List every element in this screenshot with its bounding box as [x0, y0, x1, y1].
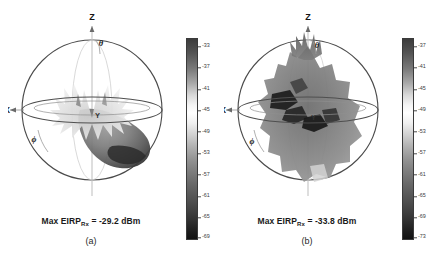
caption-b-value: = -33.8 dBm	[305, 216, 357, 226]
figure-container: Z X Y θ ϕ -33 -37 -41 -45 -49 -53 -57 -6…	[0, 0, 432, 266]
colorbar-tick-b-3: -49	[415, 108, 426, 113]
colorbar-b	[402, 38, 414, 240]
colorbar-gradient-a	[187, 39, 197, 239]
colorbar-tick-a-8: -65	[199, 215, 210, 220]
x-axis-label-b: X	[224, 105, 226, 115]
colorbar-tick-b-1: -41	[415, 65, 426, 70]
phi-arc-a	[38, 130, 48, 152]
z-axis-label-b: Z	[305, 12, 311, 22]
caption-b: Max EIRPRx = -33.8 dBm	[216, 216, 398, 226]
z-axis-arrow-a	[90, 26, 95, 32]
plot-area-b: Z X Y θ ϕ	[224, 6, 392, 214]
caption-a-subscript: Rx	[81, 221, 89, 227]
colorbar-tick-a-4: -49	[199, 129, 210, 134]
colorbar-a	[186, 38, 198, 240]
colorbar-tick-a-3: -45	[199, 108, 210, 113]
radiation-pattern-b: Z X Y θ ϕ	[224, 6, 392, 214]
colorbar-tick-b-9: -73	[415, 234, 426, 239]
colorbar-tick-b-8: -69	[415, 215, 426, 220]
sublabel-a: (a)	[0, 236, 182, 246]
main-lobe-b	[258, 46, 362, 182]
theta-label-b: θ	[315, 40, 320, 50]
z-axis-label-a: Z	[89, 12, 95, 22]
colorbar-tick-a-9: -69	[199, 234, 210, 239]
colorbar-tick-b-4: -53	[415, 129, 426, 134]
caption-a-prefix: Max EIRP	[42, 216, 82, 226]
panel-a: Z X Y θ ϕ -33 -37 -41 -45 -49 -53 -57 -6…	[0, 0, 216, 266]
colorbar-tick-b-5: -57	[415, 150, 426, 155]
caption-b-subscript: Rx	[297, 221, 305, 227]
phi-label-a: ϕ	[32, 134, 37, 144]
caption-a-value: = -29.2 dBm	[89, 216, 141, 226]
y-axis-label-a: Y	[95, 111, 100, 120]
colorbar-tick-a-5: -53	[199, 150, 210, 155]
colorbar-tick-b-7: -65	[415, 193, 426, 198]
caption-a: Max EIRPRx = -29.2 dBm	[0, 216, 182, 226]
x-axis-arrow-a	[10, 107, 16, 112]
x-axis-label-a: X	[8, 105, 10, 115]
colorbar-tick-a-0: -33	[199, 43, 210, 48]
plot-area-a: Z X Y θ ϕ	[8, 6, 176, 214]
colorbar-tick-a-1: -37	[199, 65, 210, 70]
y-axis-label-b: Y	[311, 113, 316, 122]
phi-arc-b	[254, 130, 264, 152]
colorbar-tick-a-7: -61	[199, 193, 210, 198]
z-axis-arrow-b	[306, 26, 311, 32]
colorbar-tick-b-0: -37	[415, 43, 426, 48]
colorbar-tick-b-2: -45	[415, 86, 426, 91]
radiation-pattern-a: Z X Y θ ϕ	[8, 6, 176, 214]
theta-label-a: θ	[99, 38, 104, 48]
panel-b: Z X Y θ ϕ -37 -41 -45 -49 -53 -57 -61 -6…	[216, 0, 432, 266]
colorbar-tick-a-6: -57	[199, 172, 210, 177]
colorbar-ticks-b: -37 -41 -45 -49 -53 -57 -61 -65 -69 -73	[415, 38, 432, 240]
colorbar-tick-b-6: -61	[415, 172, 426, 177]
colorbar-gradient-b	[403, 39, 413, 239]
phi-label-b: ϕ	[250, 136, 255, 146]
sublabel-b: (b)	[216, 236, 398, 246]
colorbar-tick-a-2: -41	[199, 86, 210, 91]
caption-b-prefix: Max EIRP	[258, 216, 298, 226]
x-axis-arrow-b	[226, 107, 232, 112]
